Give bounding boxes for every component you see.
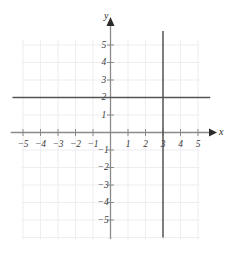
x-tick-label: −2 (70, 140, 81, 150)
y-tick-label: 1 (102, 111, 107, 121)
y-axis-label: y (104, 11, 108, 21)
x-axis-label: x (219, 127, 223, 137)
y-tick-label: −5 (98, 216, 109, 226)
x-tick-label: −3 (52, 140, 63, 150)
y-tick-label: −2 (98, 163, 109, 173)
coordinate-plane-chart: x y −5−4−3−2−11234554321−1−2−3−4−5 (0, 0, 233, 254)
x-tick-label: 3 (161, 140, 166, 150)
x-tick-label: −4 (35, 140, 46, 150)
x-tick-label: 2 (143, 140, 148, 150)
y-tick-label: 5 (102, 41, 107, 51)
y-tick-label: 3 (102, 76, 107, 86)
y-tick-label: 4 (102, 58, 107, 68)
x-tick-label: −5 (17, 140, 28, 150)
x-tick-label: 1 (126, 140, 131, 150)
y-tick-label: −1 (98, 146, 109, 156)
x-tick-label: 4 (178, 140, 183, 150)
y-tick-label: −4 (98, 198, 109, 208)
x-axis-arrow (209, 129, 217, 137)
y-tick-label: 2 (102, 93, 107, 103)
y-tick-label: −3 (98, 181, 109, 191)
axes (11, 17, 217, 239)
x-tick-label: 5 (196, 140, 201, 150)
chart-canvas (0, 0, 233, 254)
